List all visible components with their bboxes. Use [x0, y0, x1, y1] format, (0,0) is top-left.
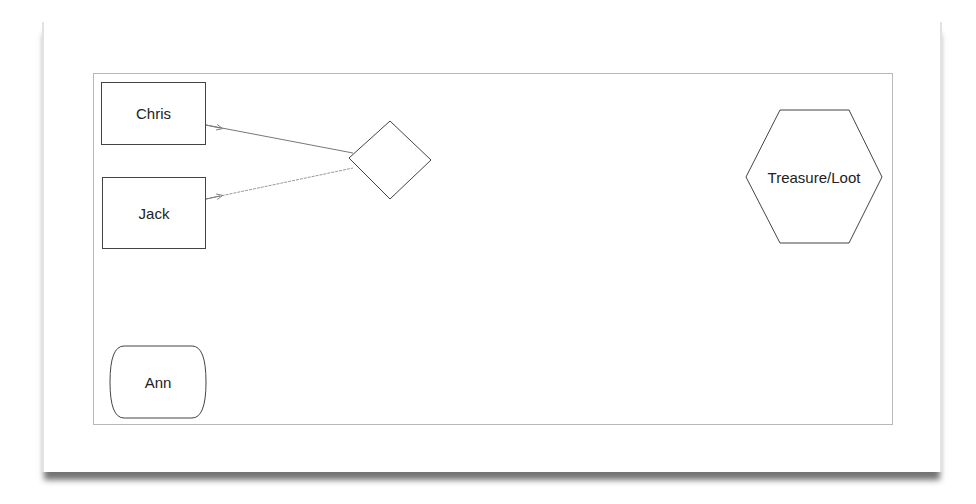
node-treasure-hexagon[interactable]: Treasure/Loot — [746, 110, 882, 243]
node-chris[interactable]: Chris — [102, 83, 206, 145]
node-decision-diamond[interactable] — [349, 121, 431, 199]
node-treasure-label: Treasure/Loot — [768, 169, 862, 186]
edge-chris-to-decision[interactable] — [206, 125, 353, 153]
edge-jack-to-decision[interactable] — [206, 168, 353, 199]
node-jack-label: Jack — [139, 205, 170, 222]
node-chris-label: Chris — [136, 105, 171, 122]
node-ann[interactable]: Ann — [110, 346, 206, 418]
node-jack[interactable]: Jack — [103, 178, 206, 249]
node-ann-label: Ann — [145, 374, 172, 391]
diagram-svg: Chris Jack Treasure/Loot Ann — [0, 0, 976, 504]
